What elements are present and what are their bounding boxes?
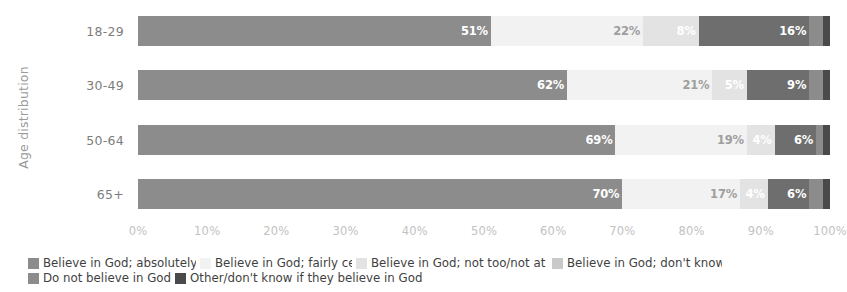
segment-value-label: 62% xyxy=(537,78,567,92)
x-axis-tick-label: 50% xyxy=(471,224,497,238)
bar-segment: 6% xyxy=(768,179,810,209)
x-axis-tick-label: 60% xyxy=(540,224,566,238)
category-label: 50-64 xyxy=(14,133,124,148)
segment-value-label: 4% xyxy=(746,187,768,201)
bar-row: 18-2951%22%8%16% xyxy=(0,12,843,50)
legend-swatch xyxy=(356,258,367,269)
category-label: 65+ xyxy=(14,187,124,202)
bar-segment xyxy=(809,70,823,100)
bar-segment: 51% xyxy=(138,16,491,46)
bar-segment: 70% xyxy=(138,179,622,209)
stacked-bar: 62%21%5%9% xyxy=(138,70,830,100)
legend-swatch xyxy=(552,258,563,269)
x-axis-tick-label: 20% xyxy=(263,224,289,238)
legend-label: Believe in God; not too/not at all certa… xyxy=(371,256,548,271)
segment-value-label: 17% xyxy=(710,187,740,201)
bar-segment: 16% xyxy=(699,16,810,46)
legend-item[interactable]: Believe in God; not too/not at all certa… xyxy=(356,256,548,271)
segment-value-label: 69% xyxy=(586,133,616,147)
segment-value-label: 5% xyxy=(725,78,747,92)
bar-row: 50-6469%19%4%6% xyxy=(0,121,843,159)
x-axis-tick-label: 90% xyxy=(748,224,774,238)
bar-segment: 17% xyxy=(622,179,740,209)
bar-row: 65+70%17%4%6% xyxy=(0,175,843,213)
bar-segment xyxy=(809,179,823,209)
legend-item[interactable]: Other/don't know if they believe in God xyxy=(175,271,422,286)
stacked-bar: 70%17%4%6% xyxy=(138,179,830,209)
legend-swatch xyxy=(200,258,211,269)
bar-segment: 22% xyxy=(491,16,643,46)
legend-swatch xyxy=(175,273,186,284)
segment-value-label: 16% xyxy=(779,24,809,38)
x-axis: 0%10%20%30%40%50%60%70%80%90%100% xyxy=(138,224,830,244)
bar-segment xyxy=(823,125,830,155)
x-axis-tick-label: 80% xyxy=(679,224,705,238)
segment-value-label: 8% xyxy=(676,24,698,38)
category-label: 30-49 xyxy=(14,78,124,93)
bar-segment xyxy=(823,70,830,100)
bar-segment: 4% xyxy=(740,179,768,209)
segment-value-label: 6% xyxy=(794,133,816,147)
bar-segment: 4% xyxy=(747,125,775,155)
legend-label: Believe in God; don't know xyxy=(567,256,722,271)
bar-segment: 6% xyxy=(775,125,817,155)
chart-legend: Believe in God; absolutely certainBeliev… xyxy=(28,256,840,286)
legend-swatch xyxy=(28,273,39,284)
category-label: 18-29 xyxy=(14,24,124,39)
segment-value-label: 6% xyxy=(787,187,809,201)
x-axis-tick-label: 70% xyxy=(609,224,635,238)
x-axis-tick-label: 30% xyxy=(333,224,359,238)
segment-value-label: 9% xyxy=(787,78,809,92)
legend-item[interactable]: Believe in God; fairly certain xyxy=(200,256,352,271)
plot-area: 18-2951%22%8%16%30-4962%21%5%9%50-6469%1… xyxy=(0,4,843,220)
segment-value-label: 21% xyxy=(682,78,712,92)
bar-segment: 62% xyxy=(138,70,567,100)
bar-segment: 19% xyxy=(615,125,746,155)
segment-value-label: 22% xyxy=(613,24,643,38)
stacked-bar: 69%19%4%6% xyxy=(138,125,830,155)
segment-value-label: 19% xyxy=(717,133,747,147)
stacked-bar: 51%22%8%16% xyxy=(138,16,830,46)
bar-segment: 8% xyxy=(643,16,698,46)
segment-value-label: 70% xyxy=(592,187,622,201)
legend-label: Believe in God; absolutely certain xyxy=(43,256,196,271)
x-axis-tick-label: 10% xyxy=(194,224,220,238)
bar-segment xyxy=(809,16,823,46)
legend-item[interactable]: Do not believe in God xyxy=(28,271,171,286)
legend-item[interactable]: Believe in God; absolutely certain xyxy=(28,256,196,271)
legend-swatch xyxy=(28,258,39,269)
legend-label: Do not believe in God xyxy=(43,271,171,286)
segment-value-label: 4% xyxy=(752,133,774,147)
bar-segment: 21% xyxy=(567,70,712,100)
bar-segment xyxy=(823,179,830,209)
bar-segment xyxy=(816,125,823,155)
legend-label: Other/don't know if they believe in God xyxy=(190,271,422,286)
bar-segment: 69% xyxy=(138,125,615,155)
bar-segment xyxy=(823,16,830,46)
x-axis-tick-label: 0% xyxy=(129,224,148,238)
bar-row: 30-4962%21%5%9% xyxy=(0,66,843,104)
bar-segment: 5% xyxy=(712,70,747,100)
x-axis-tick-label: 100% xyxy=(813,224,847,238)
segment-value-label: 51% xyxy=(461,24,491,38)
bar-segment: 9% xyxy=(747,70,809,100)
legend-item[interactable]: Believe in God; don't know xyxy=(552,256,722,271)
x-axis-tick-label: 40% xyxy=(402,224,428,238)
legend-label: Believe in God; fairly certain xyxy=(215,256,352,271)
